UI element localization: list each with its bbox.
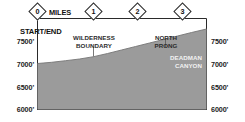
mile-marker-1-label: 1 xyxy=(87,5,100,18)
north-prong-annotation: NORTH PRONG xyxy=(136,34,196,50)
y-axis-right-label-7500: 7500' xyxy=(211,38,228,45)
y-axis-left-label-7000: 7000' xyxy=(0,61,34,68)
deadman-canyon-line1: DEADMAN xyxy=(140,54,202,62)
mile-marker-0-label: 0 xyxy=(31,5,44,18)
wilderness-boundary-line2: BOUNDARY xyxy=(64,42,124,50)
deadman-canyon-line2: CANYON xyxy=(140,62,202,70)
wilderness-boundary-line1: WILDERNESS xyxy=(64,34,124,42)
y-axis-right-label-6000: 6000' xyxy=(211,106,228,113)
y-axis-left-label-7500: 7500' xyxy=(0,38,34,45)
north-prong-line2: PRONG xyxy=(136,42,196,50)
miles-unit-label: MILES xyxy=(49,9,71,16)
y-axis-right-label-6500: 6500' xyxy=(211,84,228,91)
start-end-label: START/END xyxy=(20,28,62,36)
deadman-canyon-annotation: DEADMAN CANYON xyxy=(140,54,202,70)
y-axis-left-label-6000: 6000' xyxy=(0,106,34,113)
y-axis-left-label-6500: 6500' xyxy=(0,84,34,91)
mile-marker-3-label: 3 xyxy=(176,5,189,18)
mile-marker-2-label: 2 xyxy=(131,5,144,18)
north-prong-line1: NORTH xyxy=(136,34,196,42)
y-axis-right-label-7000: 7000' xyxy=(211,61,228,68)
wilderness-boundary-annotation: WILDERNESS BOUNDARY xyxy=(64,34,124,50)
elevation-profile-chart: 0 1 2 3 MILES START/END 7500' 7000' 6500… xyxy=(0,0,245,122)
